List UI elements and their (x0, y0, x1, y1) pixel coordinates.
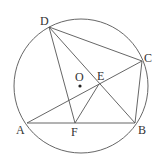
label-a: A (16, 123, 25, 137)
label-o: O (75, 70, 84, 84)
label-c: C (144, 51, 152, 65)
label-e: E (97, 69, 104, 83)
geometry-diagram: D C A B E F O (0, 0, 163, 159)
label-d: D (40, 14, 49, 28)
segment-ac (27, 61, 142, 123)
label-b: B (138, 123, 146, 137)
segment-ef (75, 84, 99, 123)
segment-cd (49, 27, 142, 61)
segment-bc (135, 61, 142, 123)
label-f: F (71, 125, 78, 139)
center-point-o (78, 84, 81, 87)
